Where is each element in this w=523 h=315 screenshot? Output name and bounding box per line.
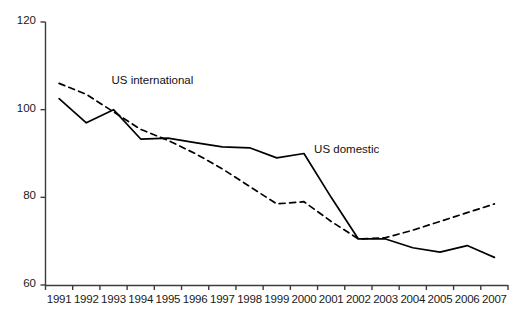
x-axis-tick-label: 1999 [263,293,290,305]
x-axis-tick-label: 2000 [290,293,317,305]
y-axis-tick-label: 100 [4,102,36,114]
x-axis-tick-label: 2006 [454,293,481,305]
line-chart: 1201008060 19911992199319941995199619971… [0,0,523,315]
chart-plot-area [0,0,523,315]
series-annotation-us-domestic: US domestic [314,143,379,155]
x-axis-tick-label: 1998 [236,293,263,305]
x-axis-tick-label: 2001 [318,293,345,305]
x-axis-tick-label: 1992 [73,293,100,305]
x-axis-tick-label: 1993 [100,293,127,305]
x-axis-tick-label: 2003 [372,293,399,305]
series-line-us-international [59,83,494,239]
x-axis-tick-label: 2007 [481,293,508,305]
x-axis-tick-label: 1997 [209,293,236,305]
y-axis-ticks [41,22,46,285]
y-axis-tick-label: 60 [4,277,36,289]
x-axis-tick-label: 1994 [127,293,154,305]
x-axis-tick-label: 1996 [182,293,209,305]
x-axis-tick-label: 2004 [399,293,426,305]
series-line-us-domestic [59,99,494,258]
x-axis-tick-label: 2005 [426,293,453,305]
x-axis-tick-label: 2002 [345,293,372,305]
x-axis-tick-label: 1991 [46,293,73,305]
x-axis-tick-label: 1995 [154,293,181,305]
y-axis-tick-label: 120 [4,14,36,26]
series-annotation-us-international: US international [112,74,194,86]
y-axis-tick-label: 80 [4,189,36,201]
